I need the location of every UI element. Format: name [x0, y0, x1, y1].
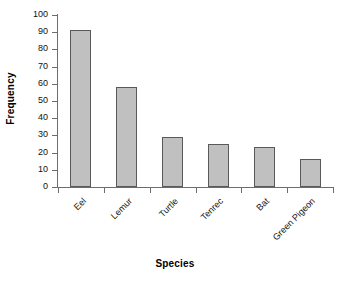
- x-axis-title: Species: [0, 258, 350, 269]
- y-axis-tick-label: 90: [22, 27, 48, 36]
- bar-bat: [254, 147, 275, 187]
- y-axis-tick-label: 10: [22, 165, 48, 174]
- y-axis-tick-label: 100: [22, 10, 48, 19]
- y-axis-tick-label: 70: [22, 62, 48, 71]
- y-axis-tick: [52, 135, 57, 136]
- x-axis-tick: [150, 188, 151, 193]
- bar-tenrec: [208, 144, 229, 187]
- y-axis-title-text: Frequency: [5, 72, 16, 124]
- y-axis-tick: [52, 67, 57, 68]
- plot-area: [58, 15, 333, 187]
- x-axis-tick: [333, 188, 334, 193]
- y-axis-tick-label: 0: [22, 182, 48, 191]
- y-axis-tick-label: 30: [22, 130, 48, 139]
- y-axis-title: Frequency: [2, 0, 18, 196]
- y-axis-tick-label: 40: [22, 113, 48, 122]
- x-axis-tick: [287, 188, 288, 193]
- y-axis-tick: [52, 118, 57, 119]
- bar-eel: [70, 30, 91, 187]
- bar-green-pigeon: [300, 159, 321, 187]
- bar-turtle: [162, 137, 183, 187]
- y-axis-tick-label: 80: [22, 44, 48, 53]
- y-axis-tick-label: 50: [22, 96, 48, 105]
- x-axis-tick: [196, 188, 197, 193]
- y-axis-tick: [52, 170, 57, 171]
- y-axis-tick: [52, 187, 57, 188]
- x-axis-tick: [58, 188, 59, 193]
- y-axis-tick-label: 20: [22, 148, 48, 157]
- x-axis-tick: [104, 188, 105, 193]
- bar-lemur: [116, 87, 137, 187]
- y-axis-tick: [52, 49, 57, 50]
- y-axis-tick: [52, 32, 57, 33]
- y-axis-tick: [52, 153, 57, 154]
- bar-chart: Frequency 1009080706050403020100 EelLemu…: [0, 0, 350, 281]
- x-axis-tick: [241, 188, 242, 193]
- y-axis-tick: [52, 84, 57, 85]
- y-axis-tick: [52, 15, 57, 16]
- y-axis-tick: [52, 101, 57, 102]
- y-axis-tick-label: 60: [22, 79, 48, 88]
